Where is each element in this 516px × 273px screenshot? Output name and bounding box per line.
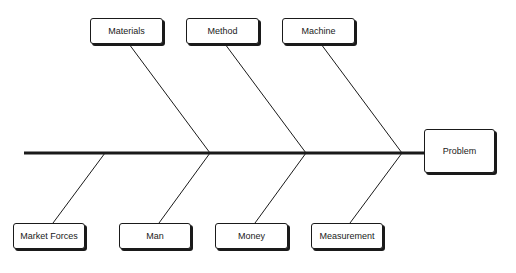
- bone-money: [255, 153, 306, 223]
- cause-label: Market Forces: [20, 231, 78, 241]
- bone-materials: [129, 44, 210, 153]
- cause-box-man: Man: [119, 223, 191, 249]
- bone-machine: [321, 44, 402, 153]
- cause-box-money: Money: [215, 223, 288, 249]
- bone-man: [159, 153, 210, 223]
- cause-label: Money: [238, 231, 265, 241]
- bone-method: [225, 44, 306, 153]
- cause-box-materials: Materials: [90, 18, 163, 44]
- bone-measurement: [350, 153, 402, 223]
- cause-box-measurement: Measurement: [311, 223, 383, 249]
- problem-box: Problem: [424, 129, 495, 173]
- cause-label: Measurement: [319, 231, 374, 241]
- cause-label: Man: [146, 231, 164, 241]
- cause-box-machine: Machine: [282, 18, 355, 44]
- cause-label: Machine: [301, 26, 335, 36]
- cause-label: Method: [207, 26, 237, 36]
- cause-label: Materials: [108, 26, 145, 36]
- problem-label: Problem: [443, 146, 477, 156]
- cause-box-method: Method: [186, 18, 259, 44]
- cause-box-market-forces: Market Forces: [13, 223, 85, 249]
- bone-market-forces: [53, 153, 105, 223]
